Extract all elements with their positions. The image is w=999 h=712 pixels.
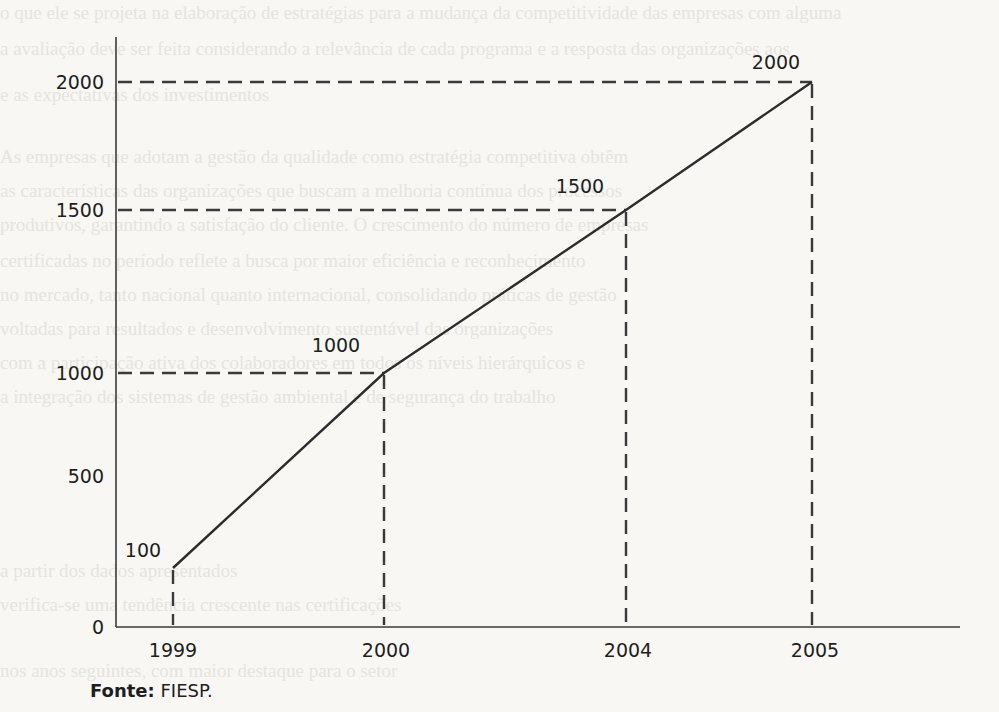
data-label: 1500 <box>556 175 604 197</box>
source-note: Fonte: FIESP. <box>90 680 213 701</box>
data-label: 1000 <box>312 334 360 356</box>
x-tick-label: 2000 <box>362 639 410 661</box>
y-tick-label: 1000 <box>56 362 104 384</box>
y-tick-label: 0 <box>92 616 104 638</box>
source-label: Fonte: <box>90 680 155 701</box>
y-tick-label: 1500 <box>56 199 104 221</box>
x-tick-label: 2005 <box>791 639 839 661</box>
y-tick-label: 2000 <box>56 71 104 93</box>
data-label: 100 <box>125 539 161 561</box>
x-tick-label: 1999 <box>149 639 197 661</box>
line-chart: 0 500 1000 1500 2000 1999 2000 2004 2005… <box>0 0 999 712</box>
series-line <box>173 82 812 568</box>
source-value: FIESP. <box>161 680 213 701</box>
x-tick-label: 2004 <box>604 639 652 661</box>
y-tick-label: 500 <box>68 465 104 487</box>
data-label: 2000 <box>752 51 800 73</box>
